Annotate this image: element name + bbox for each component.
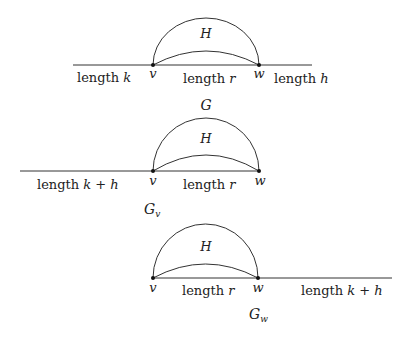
vertex-v-label: v	[149, 173, 157, 188]
subgraph-label: H	[199, 239, 212, 254]
vertex-v-label: v	[149, 280, 157, 295]
segment-middle-label: length r	[183, 71, 236, 86]
diagram-caption: G	[200, 97, 211, 113]
vertex-w-label: w	[252, 280, 263, 295]
subgraph-label: H	[199, 131, 212, 146]
subgraph-inner-arc	[153, 155, 259, 171]
segment-right-label: length k + h	[301, 283, 383, 298]
subgraph-inner-arc	[153, 51, 259, 65]
subgraph-label: H	[199, 26, 212, 41]
segment-left-label: length k	[77, 70, 131, 85]
subgraph-inner-arc	[153, 264, 258, 278]
segment-left-label: length k + h	[37, 177, 119, 192]
diagram-caption: Gv	[144, 201, 160, 219]
vertex-w-label: w	[254, 173, 265, 188]
segment-right-label: length h	[274, 71, 329, 86]
diagram-caption: Gw	[249, 306, 268, 324]
vertex-v-label: v	[149, 66, 157, 81]
vertex-w-label: w	[253, 66, 264, 81]
diagram-g-w: H v w length r length k + h Gw	[149, 224, 392, 324]
diagram-canvas: H v w length k length r length h G H v w…	[0, 0, 406, 338]
diagram-g-v: H v w length k + h length r Gv	[20, 118, 266, 219]
segment-middle-label: length r	[183, 177, 236, 192]
diagram-g: H v w length k length r length h G	[73, 18, 329, 113]
segment-middle-label: length r	[182, 283, 235, 298]
